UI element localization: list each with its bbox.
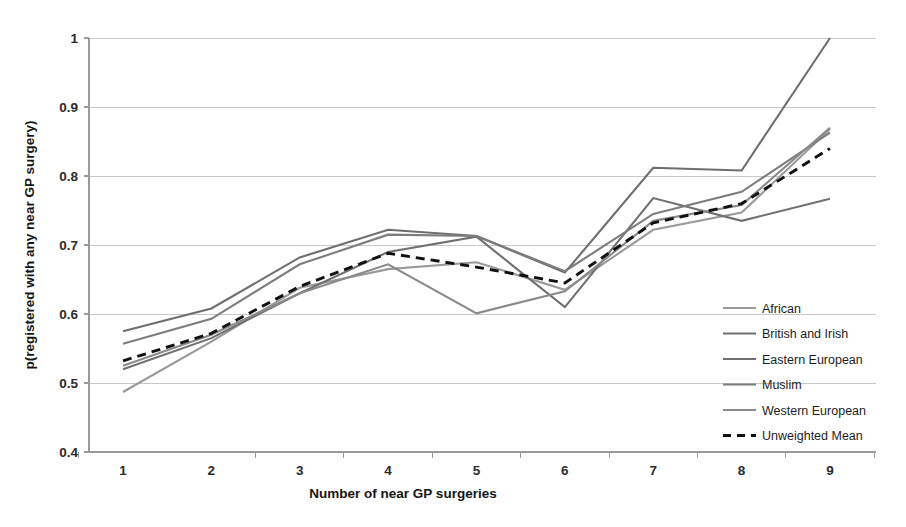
series-lines (123, 38, 830, 392)
y-tick-label: 0.6 (59, 307, 78, 322)
legend-label: Eastern European (762, 353, 863, 367)
series-line (123, 198, 830, 369)
y-tick-label: 0.4 (59, 445, 78, 460)
x-tick-label: 5 (473, 463, 481, 478)
legend-label: Western European (762, 404, 866, 418)
x-tick-label: 8 (738, 463, 746, 478)
series-line (123, 129, 830, 392)
x-tick-label: 2 (208, 463, 216, 478)
y-tick-marks (84, 38, 89, 452)
series-line (123, 133, 830, 344)
x-tick-label: 6 (561, 463, 569, 478)
x-tick-label: 1 (119, 463, 127, 478)
y-tick-label: 0.5 (59, 376, 78, 391)
y-tick-label: 1 (70, 31, 78, 46)
chart-legend: AfricanBritish and IrishEastern European… (723, 302, 866, 444)
x-tick-label: 3 (296, 463, 304, 478)
legend-label: Unweighted Mean (762, 429, 863, 443)
y-tick-labels: 0.40.50.60.70.80.91 (59, 31, 78, 460)
x-tick-label: 7 (649, 463, 657, 478)
x-axis-title: Number of near GP surgeries (309, 486, 496, 501)
series-line (123, 38, 830, 331)
y-tick-label: 0.9 (59, 100, 78, 115)
x-tick-label: 9 (826, 463, 834, 478)
y-tick-label: 0.8 (59, 169, 78, 184)
legend-label: Muslim (762, 378, 802, 392)
line-chart: 0.40.50.60.70.80.91 123456789 AfricanBri… (0, 0, 906, 527)
y-axis-title: p(registered with any near GP surgery) (22, 121, 37, 370)
legend-label: British and Irish (762, 327, 848, 341)
gridlines (89, 38, 876, 452)
x-tick-labels: 123456789 (119, 463, 834, 478)
x-tick-label: 4 (384, 463, 392, 478)
legend-label: African (762, 302, 801, 316)
x-tick-marks (79, 452, 874, 458)
y-tick-label: 0.7 (59, 238, 78, 253)
chart-container: 0.40.50.60.70.80.91 123456789 AfricanBri… (0, 0, 906, 527)
